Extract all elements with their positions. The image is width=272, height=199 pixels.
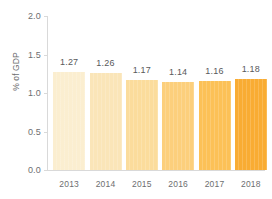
y-axis-title-label: % of GDP [6, 0, 26, 171]
x-axis-line [47, 170, 265, 171]
bar-chart: % of GDP 0.00.51.01.52.0 1.271.261.171.1… [0, 0, 272, 199]
y-axis-tick-label: 1.5 [5, 49, 41, 61]
y-axis-tick-label: 0.5 [5, 126, 41, 138]
bar[interactable] [53, 72, 85, 170]
bar[interactable] [162, 82, 194, 170]
y-axis-tick-mark [44, 132, 47, 133]
y-axis-tick-label: 0.0 [5, 164, 41, 176]
bar[interactable] [90, 73, 122, 170]
bar-value-label: 1.18 [227, 63, 272, 75]
y-axis-tick-mark [44, 170, 47, 171]
bar[interactable] [235, 79, 267, 170]
y-axis-tick-label: 2.0 [5, 10, 41, 22]
x-axis-tick-label: 2018 [227, 178, 272, 190]
plot-area: 0.00.51.01.52.0 1.271.261.171.141.161.18… [47, 16, 265, 171]
y-axis-tick-label: 1.0 [5, 87, 41, 99]
bar[interactable] [126, 80, 158, 170]
bar[interactable] [199, 81, 231, 170]
y-axis-tick-mark [44, 93, 47, 94]
y-axis-line [47, 16, 48, 171]
y-axis-tick-mark [44, 16, 47, 17]
